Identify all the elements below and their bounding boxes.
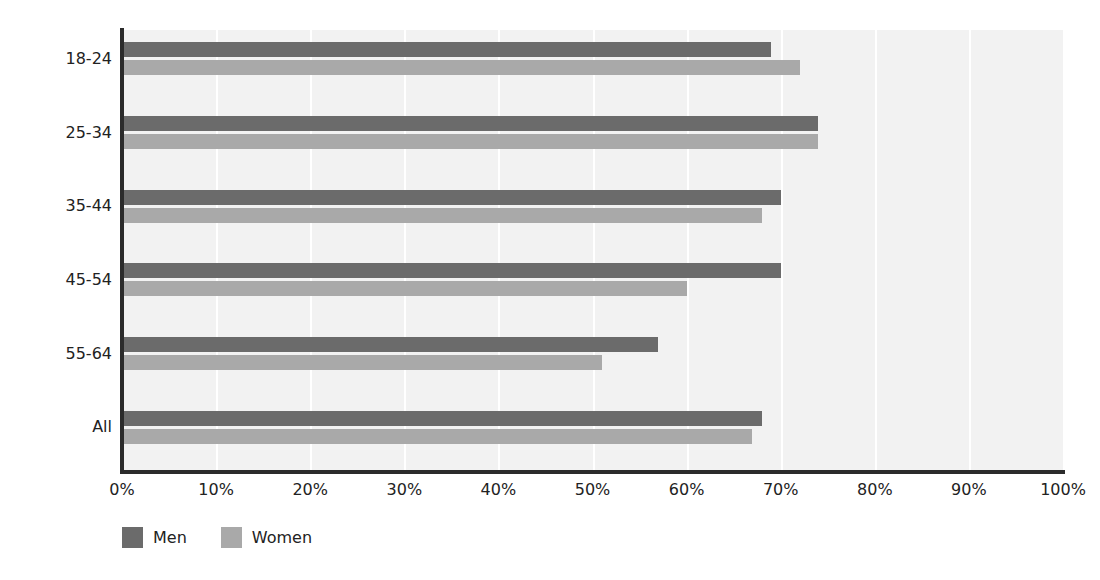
x-axis-line [120,470,1065,474]
bar-group-25-34 [122,116,1063,149]
bar-chart: 18-2425-3435-4445-5455-64All 0%10%20%30%… [0,0,1100,580]
bar-25-34-women [122,134,818,149]
gridline [969,30,971,472]
bar-25-34-men [122,116,818,131]
bar-group-55-64 [122,337,1063,370]
x-tick-label-30pct: 30% [387,480,423,499]
bar-35-44-men [122,190,781,205]
gridline [781,30,783,472]
gridline [593,30,595,472]
gridline [875,30,877,472]
y-tick-label-25-34: 25-34 [2,125,112,141]
legend-item-women[interactable]: Women [221,527,312,548]
bar-55-64-women [122,355,602,370]
gridline [498,30,500,472]
x-tick-label-20pct: 20% [292,480,328,499]
gridline [310,30,312,472]
bar-all-men [122,411,762,426]
gridline [404,30,406,472]
legend-swatch-women [221,527,242,548]
y-tick-label-45-54: 45-54 [2,272,112,288]
bar-35-44-women [122,208,762,223]
y-tick-label-35-44: 35-44 [2,198,112,214]
legend-item-men[interactable]: Men [122,527,187,548]
bar-45-54-men [122,263,781,278]
bar-55-64-men [122,337,658,352]
bar-group-all [122,411,1063,444]
plot-area [122,30,1063,472]
legend-label-women: Women [252,528,312,547]
x-axis-tick-labels: 0%10%20%30%40%50%60%70%80%90%100% [0,480,1100,506]
gridline [216,30,218,472]
gridline [687,30,689,472]
x-tick-label-60pct: 60% [669,480,705,499]
bar-group-35-44 [122,190,1063,223]
legend-swatch-men [122,527,143,548]
bar-18-24-women [122,60,800,75]
y-tick-label-18-24: 18-24 [2,51,112,67]
x-tick-label-70pct: 70% [763,480,799,499]
y-tick-label-all: All [2,419,112,435]
y-axis-tick-labels: 18-2425-3435-4445-5455-64All [0,30,112,472]
legend: MenWomen [122,524,312,550]
bar-group-18-24 [122,42,1063,75]
x-tick-label-100pct: 100% [1040,480,1086,499]
bar-group-45-54 [122,263,1063,296]
x-tick-label-0pct: 0% [109,480,134,499]
x-tick-label-80pct: 80% [857,480,893,499]
x-tick-label-10pct: 10% [198,480,234,499]
y-tick-label-55-64: 55-64 [2,346,112,362]
bar-45-54-women [122,281,687,296]
x-tick-label-90pct: 90% [951,480,987,499]
legend-label-men: Men [153,528,187,547]
y-axis-line [120,28,124,474]
bar-all-women [122,429,752,444]
bar-18-24-men [122,42,771,57]
x-tick-label-50pct: 50% [575,480,611,499]
x-tick-label-40pct: 40% [481,480,517,499]
